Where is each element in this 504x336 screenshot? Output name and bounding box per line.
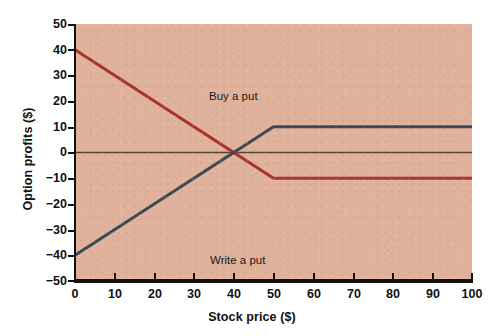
y-tick-label--20: −20: [46, 198, 67, 211]
y-tick-label-50: 50: [53, 18, 67, 31]
x-tick-label-70: 70: [334, 288, 374, 301]
y-tick--50: [68, 280, 75, 282]
y-tick-50: [68, 24, 75, 26]
y-tick-label-10: 10: [53, 121, 67, 134]
y-tick-label--10: −10: [46, 172, 67, 185]
y-tick-label-0: 0: [60, 146, 67, 159]
y-tick-label--40: −40: [46, 249, 67, 262]
y-tick-0: [68, 152, 75, 154]
series-label-write-a-put: Write a put: [210, 254, 265, 266]
series-label-buy-a-put: Buy a put: [209, 90, 258, 102]
x-tick-100: [471, 273, 473, 280]
x-axis-title: Stock price ($): [0, 310, 504, 324]
series-line-write-a-put: [75, 127, 472, 256]
x-tick-label-40: 40: [214, 288, 254, 301]
y-tick--10: [68, 178, 75, 180]
x-tick-10: [114, 273, 116, 280]
y-tick-label-30: 30: [53, 69, 67, 82]
y-axis-title: Option profits ($): [21, 79, 35, 239]
series-layer: [75, 24, 472, 281]
series-line-buy-a-put: [75, 50, 472, 179]
y-tick--40: [68, 255, 75, 257]
x-tick-label-100: 100: [452, 288, 492, 301]
x-tick-40: [233, 273, 235, 280]
chart-figure: Buy a put Write a put 50 40 30 20 10 0 −…: [0, 0, 504, 336]
y-tick-label--30: −30: [46, 224, 67, 237]
y-tick-10: [68, 127, 75, 129]
x-tick-30: [193, 273, 195, 280]
x-tick-label-80: 80: [373, 288, 413, 301]
y-tick--20: [68, 204, 75, 206]
x-tick-80: [392, 273, 394, 280]
x-tick-label-0: 0: [55, 288, 95, 301]
x-tick-60: [313, 273, 315, 280]
x-tick-70: [353, 273, 355, 280]
y-tick-label--50: −50: [46, 275, 67, 288]
x-tick-label-50: 50: [254, 288, 294, 301]
x-tick-label-20: 20: [135, 288, 175, 301]
y-tick-40: [68, 49, 75, 51]
x-tick-20: [154, 273, 156, 280]
x-tick-label-30: 30: [174, 288, 214, 301]
x-tick-90: [432, 273, 434, 280]
x-tick-label-60: 60: [294, 288, 334, 301]
y-tick-label-40: 40: [53, 44, 67, 57]
x-tick-label-90: 90: [413, 288, 453, 301]
y-tick-label-20: 20: [53, 95, 67, 108]
x-tick-label-10: 10: [95, 288, 135, 301]
plot-area: Buy a put Write a put: [75, 24, 472, 281]
x-tick-0: [74, 273, 76, 280]
y-tick-30: [68, 75, 75, 77]
y-tick--30: [68, 230, 75, 232]
x-tick-50: [273, 273, 275, 280]
y-tick-20: [68, 101, 75, 103]
